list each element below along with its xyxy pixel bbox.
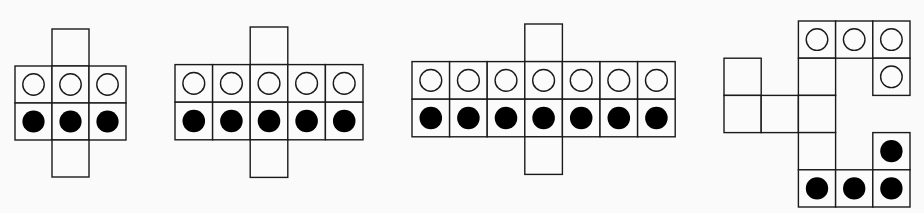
black-circle-icon: [880, 177, 902, 199]
grid-cell: [724, 58, 761, 95]
grid-cell: [798, 58, 835, 95]
black-circle-icon: [608, 107, 631, 130]
black-circle-icon: [843, 177, 865, 199]
grid-cell: [761, 95, 798, 132]
figure-4: [724, 21, 910, 207]
black-circle-icon: [96, 110, 118, 132]
grid-cell: [525, 24, 563, 62]
black-circle-icon: [183, 110, 206, 133]
white-circle-icon: [881, 66, 903, 88]
black-circle-icon: [645, 107, 668, 130]
grid-cell: [52, 29, 89, 66]
black-circle-icon: [258, 110, 281, 133]
black-circle-icon: [333, 110, 356, 133]
black-circle-icon: [220, 110, 243, 133]
white-circle-icon: [533, 69, 555, 91]
figure-1: [15, 29, 126, 177]
white-circle-icon: [23, 74, 44, 95]
grid-cell: [250, 140, 288, 178]
white-circle-icon: [570, 69, 592, 91]
figure-2: [175, 27, 363, 177]
black-circle-icon: [420, 107, 443, 130]
white-circle-icon: [420, 69, 442, 91]
white-circle-icon: [881, 29, 903, 51]
net-diagrams: [0, 0, 924, 213]
white-circle-icon: [60, 74, 81, 95]
white-circle-icon: [457, 69, 479, 91]
black-circle-icon: [59, 110, 81, 132]
black-circle-icon: [532, 107, 555, 130]
black-circle-icon: [457, 107, 480, 130]
black-circle-icon: [570, 107, 593, 130]
black-circle-icon: [295, 110, 318, 133]
black-circle-icon: [22, 110, 44, 132]
white-circle-icon: [843, 29, 865, 51]
grid-cell: [250, 27, 288, 65]
white-circle-icon: [333, 72, 355, 94]
grid-cell: [798, 95, 835, 132]
white-circle-icon: [220, 72, 242, 94]
figure-3: [412, 24, 675, 174]
grid-cell: [52, 140, 89, 177]
white-circle-icon: [806, 29, 828, 51]
white-circle-icon: [645, 69, 667, 91]
white-circle-icon: [296, 72, 318, 94]
grid-cell: [724, 95, 761, 132]
black-circle-icon: [495, 107, 518, 130]
white-circle-icon: [608, 69, 630, 91]
white-circle-icon: [97, 74, 118, 95]
grid-cell: [798, 133, 835, 170]
white-circle-icon: [495, 69, 517, 91]
white-circle-icon: [183, 72, 205, 94]
white-circle-icon: [258, 72, 280, 94]
grid-cell: [525, 137, 563, 175]
black-circle-icon: [880, 140, 902, 162]
black-circle-icon: [806, 177, 828, 199]
